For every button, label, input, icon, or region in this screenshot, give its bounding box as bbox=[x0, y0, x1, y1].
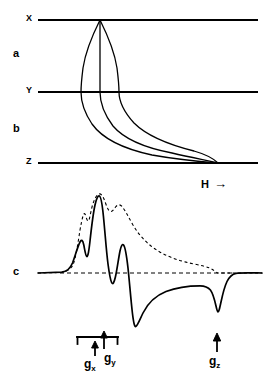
figure-canvas bbox=[0, 0, 272, 384]
reference-lines-group bbox=[38, 20, 258, 163]
axis-label-z: Z bbox=[26, 157, 32, 166]
marker-label-gz: gz bbox=[209, 355, 220, 367]
gz-arrow-icon bbox=[213, 333, 220, 352]
marker-label-gx: gx bbox=[84, 358, 96, 370]
epr-powder-pattern-figure: X Y Z a b c H→ gx gy gz bbox=[0, 0, 272, 384]
gy-arrow-icon bbox=[101, 331, 108, 349]
panel-label-c: c bbox=[13, 266, 19, 277]
gx-sub: x bbox=[91, 364, 95, 373]
gx-gy-bracket bbox=[77, 337, 118, 344]
panel-label-b: b bbox=[13, 123, 20, 134]
gz-sub: z bbox=[216, 361, 220, 370]
panel-label-a: a bbox=[13, 48, 19, 59]
marker-label-gy: gy bbox=[104, 352, 116, 364]
field-symbol: H bbox=[201, 178, 209, 190]
derivative-curve bbox=[38, 196, 262, 327]
gx-arrow-icon bbox=[92, 341, 99, 356]
axis-label-y: Y bbox=[26, 86, 32, 95]
absorption-curve bbox=[38, 194, 262, 273]
field-axis-label: H→ bbox=[201, 177, 227, 190]
axis-label-x: X bbox=[26, 14, 32, 23]
right-arrow-icon: → bbox=[209, 176, 227, 191]
gy-sub: y bbox=[111, 358, 115, 367]
